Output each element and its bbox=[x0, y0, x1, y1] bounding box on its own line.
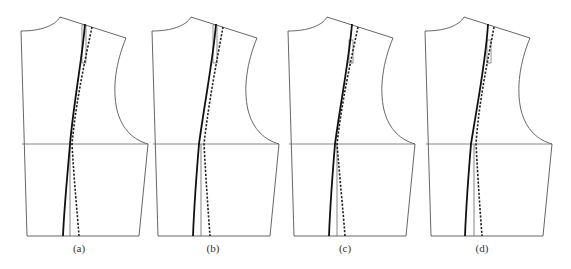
dashed-seam-line bbox=[204, 27, 223, 236]
panel-label-b: (b) bbox=[207, 242, 220, 254]
bodice-outline bbox=[425, 17, 552, 236]
panel-label-d: (d) bbox=[476, 242, 489, 254]
panel-label-c: (c) bbox=[339, 242, 351, 254]
panel-a bbox=[21, 17, 148, 236]
panel-c bbox=[288, 17, 415, 236]
panel-d bbox=[425, 17, 552, 236]
bodice-outline bbox=[152, 17, 279, 236]
panel-b bbox=[152, 17, 279, 236]
bodice-outline bbox=[288, 17, 415, 236]
bodice-outline bbox=[21, 17, 148, 236]
panel-label-a: (a) bbox=[73, 242, 85, 254]
pattern-figure bbox=[0, 0, 571, 269]
solid-seam-line bbox=[193, 24, 216, 236]
solid-seam-line bbox=[329, 24, 352, 236]
